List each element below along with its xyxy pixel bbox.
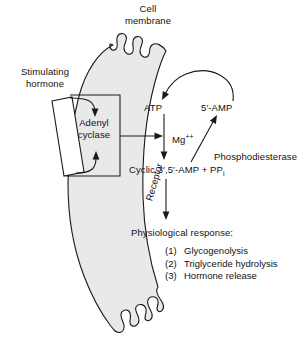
cyclic-amp-label: Cyclic 3′,5′-AMP + PPi bbox=[129, 164, 225, 179]
list-item-number: (3) bbox=[165, 270, 184, 283]
amp-5-prime-label: 5′-AMP bbox=[201, 102, 232, 114]
cyclic-amp-text: Cyclic 3′,5′-AMP + PP bbox=[129, 164, 223, 175]
diagram-canvas: #ffffff Cell membrane Stimulating hormon… bbox=[0, 0, 308, 364]
phosphodiesterase-label: Phosphodiesterase bbox=[214, 151, 297, 163]
list-item-label: Glycogenolysis bbox=[184, 245, 248, 256]
mg-symbol: Mg bbox=[172, 134, 185, 145]
cyclic-amp-subscript: i bbox=[223, 170, 225, 177]
list-item-label: Triglyceride hydrolysis bbox=[184, 258, 278, 269]
adenyl-cyclase-line1: Adenyl bbox=[70, 117, 118, 129]
camp-to-response-arrowhead bbox=[163, 212, 170, 221]
cell-membrane-label-line1: Cell bbox=[108, 3, 188, 15]
atp-label: ATP bbox=[144, 102, 162, 114]
list-item-label: Hormone release bbox=[184, 270, 257, 281]
stimulating-hormone-label: Stimulating hormone bbox=[2, 66, 88, 89]
amp-to-atp-curve bbox=[165, 71, 233, 101]
cell-membrane-label: #ffffff Cell membrane bbox=[108, 3, 188, 26]
physiological-response-label: Physiological response: bbox=[131, 227, 233, 239]
list-item: (2)Triglyceride hydrolysis bbox=[165, 258, 278, 271]
list-item-number: (1) bbox=[165, 245, 184, 258]
physiological-response-list: (1)Glycogenolysis (2)Triglyceride hydrol… bbox=[165, 245, 278, 283]
phosphodiesterase-line bbox=[191, 122, 213, 162]
list-item: (1)Glycogenolysis bbox=[165, 245, 278, 258]
mg-charge: ++ bbox=[185, 133, 193, 140]
cell-membrane-label-line2: membrane bbox=[108, 15, 188, 27]
adenyl-cyclase-line2: cyclase bbox=[70, 129, 118, 141]
list-item-number: (2) bbox=[165, 258, 184, 271]
cyclase-to-reaction-arrowhead bbox=[155, 133, 164, 140]
list-item: (3)Hormone release bbox=[165, 270, 278, 283]
stimulating-hormone-line2: hormone bbox=[2, 78, 88, 90]
stimulating-hormone-line1: Stimulating bbox=[2, 66, 88, 78]
magnesium-ion-label: Mg++ bbox=[172, 131, 194, 146]
atp-to-camp-arrowhead bbox=[161, 152, 168, 161]
phosphodiesterase-arrowhead bbox=[210, 115, 217, 124]
adenyl-cyclase-label: Adenyl cyclase bbox=[70, 117, 118, 140]
